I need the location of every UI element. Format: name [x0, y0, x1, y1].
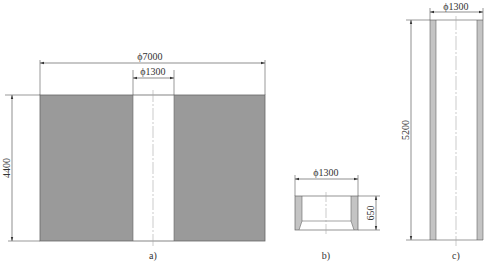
dimension-height: 650	[365, 206, 376, 221]
dimension-diameter: ϕ1300	[313, 167, 338, 178]
dimension-diameter: ϕ1300	[443, 1, 468, 12]
wall-left	[430, 20, 436, 240]
caption-c: c)	[452, 250, 460, 262]
wall-right	[477, 20, 483, 240]
fill-block-left	[40, 95, 133, 241]
figure-b: ϕ1300 650 b)	[295, 167, 380, 262]
drawing-canvas: ϕ7000 ϕ1300 4400 a) ϕ1300 650 b)	[0, 0, 488, 270]
outline-b	[295, 196, 358, 230]
figure-a: ϕ7000 ϕ1300 4400 a)	[1, 51, 265, 262]
dimension-inner-diameter: ϕ1300	[140, 66, 165, 77]
caption-a: a)	[149, 250, 157, 262]
figure-c: ϕ1300 5200 c)	[400, 1, 483, 262]
dimension-outer-diameter: ϕ7000	[137, 51, 162, 62]
dimension-height: 5200	[400, 120, 411, 140]
dimension-height: 4400	[1, 158, 12, 178]
fill-block-right	[174, 95, 265, 241]
caption-b: b)	[322, 250, 330, 262]
